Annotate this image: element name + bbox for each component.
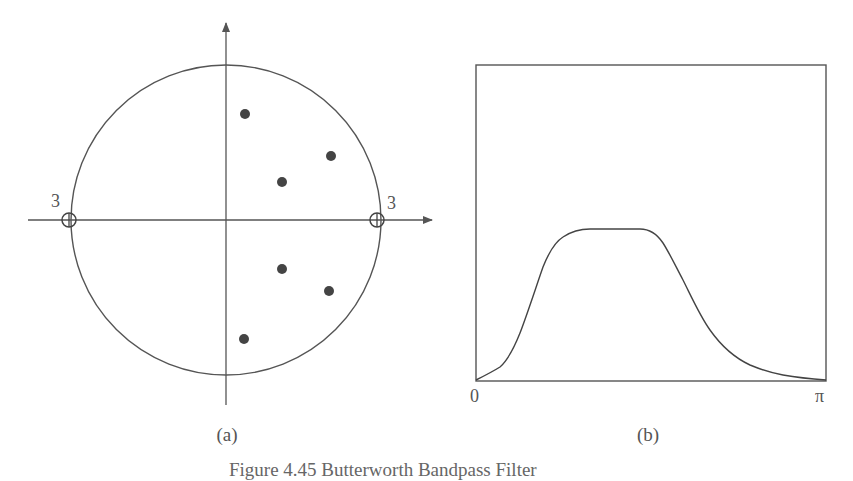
pole-marker xyxy=(240,109,250,119)
subfigure-label-b: (b) xyxy=(637,424,659,446)
pole-marker xyxy=(239,334,249,344)
x-tick-label-pi: π xyxy=(815,386,824,407)
x-tick-label-zero: 0 xyxy=(470,386,479,407)
pole-zero-plot xyxy=(28,23,432,405)
pole-marker xyxy=(326,151,336,161)
magnitude-response-plot xyxy=(476,65,826,381)
pole-marker xyxy=(324,286,334,296)
zero-multiplicity-label-right: 3 xyxy=(387,193,396,214)
poles xyxy=(239,109,336,344)
figure-caption: Figure 4.45 Butterworth Bandpass Filter xyxy=(229,459,537,481)
response-curve xyxy=(476,229,826,380)
zero-multiplicity-label-left: 3 xyxy=(51,191,60,212)
pole-marker xyxy=(277,264,287,274)
plot-frame xyxy=(476,65,826,381)
pole-marker xyxy=(277,177,287,187)
subfigure-label-a: (a) xyxy=(216,424,237,446)
